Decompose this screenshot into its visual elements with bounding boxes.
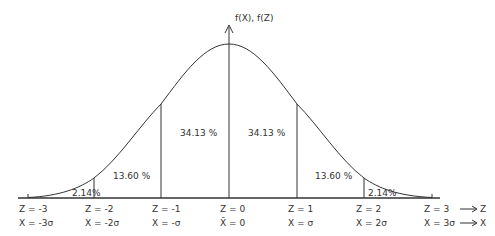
x-tick-label: X̄ = 0	[220, 217, 245, 228]
z-tick-label: Z = -2	[85, 204, 113, 214]
x-tick-label: X = -σ	[152, 218, 181, 228]
y-axis-label: f(X), f(Z)	[235, 13, 273, 23]
x-tick-label: X = -2σ	[85, 218, 119, 228]
region-label: 13.60 %	[315, 171, 353, 181]
region-label: 2.14%	[368, 188, 397, 198]
z-axis-label: Z	[480, 204, 486, 214]
region-label: 2.14%	[72, 188, 101, 198]
bell-curve	[28, 44, 432, 198]
normal-distribution-diagram: f(X), f(Z) 2.14% 13.60 % 34.13 % 34.13 %…	[0, 0, 495, 236]
x-tick-label: X = 3σ	[424, 218, 455, 228]
x-tick-label: X = -3σ	[19, 218, 53, 228]
region-label: 34.13 %	[248, 128, 286, 138]
z-tick-label: Z = 3	[424, 204, 449, 214]
z-tick-label: Z = 1	[288, 204, 313, 214]
z-tick-label: Z = 0	[220, 204, 245, 214]
x-tick-label: X = σ	[288, 218, 313, 228]
z-tick-label: Z = -3	[19, 204, 47, 214]
z-tick-label: Z = 2	[356, 204, 381, 214]
region-label: 34.13 %	[180, 128, 218, 138]
z-tick-label: Z = -1	[152, 204, 180, 214]
region-label: 13.60 %	[113, 171, 151, 181]
x-tick-label: X = 2σ	[356, 218, 387, 228]
x-axis-label: X	[480, 218, 486, 228]
